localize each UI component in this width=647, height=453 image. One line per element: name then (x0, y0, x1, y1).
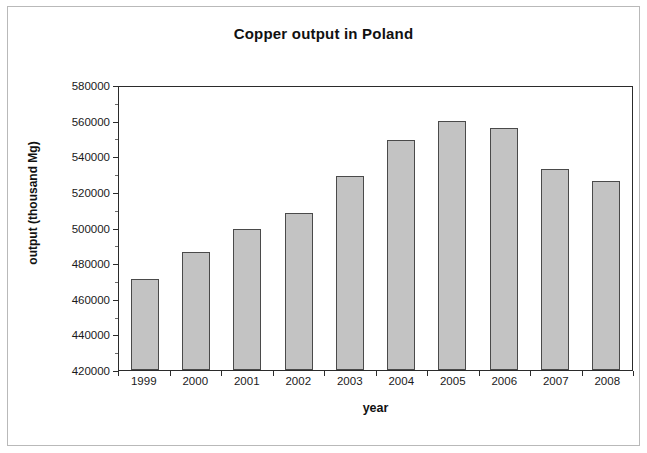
bar-slot (170, 87, 221, 370)
y-tick-label: 580000 (72, 80, 110, 92)
bar-slot (119, 87, 170, 370)
bar-slot (324, 87, 375, 370)
plot-area (118, 86, 633, 371)
x-tick-label-2007: 2007 (530, 375, 582, 387)
bar-slot (478, 87, 529, 370)
x-tick-mark (633, 371, 634, 376)
x-axis-title: year (118, 401, 633, 415)
x-tick-label-2006: 2006 (479, 375, 531, 387)
bar-slot (427, 87, 478, 370)
x-tick-label-2000: 2000 (170, 375, 222, 387)
bar-slot (375, 87, 426, 370)
bar-2002[interactable] (285, 213, 313, 370)
bar-2007[interactable] (541, 169, 569, 370)
y-tick-label: 540000 (72, 151, 110, 163)
y-tick-label: 460000 (72, 294, 110, 306)
y-tick-label: 560000 (72, 116, 110, 128)
y-axis-tick-labels: 5800005600005400005200005000004800004600… (40, 86, 110, 371)
bar-2004[interactable] (387, 140, 415, 370)
x-tick-label-2005: 2005 (427, 375, 479, 387)
bar-2008[interactable] (592, 181, 620, 370)
bar-2001[interactable] (233, 229, 261, 370)
bar-2003[interactable] (336, 176, 364, 370)
chart-figure: Copper output in Poland output (thousand… (0, 0, 647, 453)
y-tick-label: 480000 (72, 258, 110, 270)
x-tick-label-2003: 2003 (324, 375, 376, 387)
y-tick-label: 520000 (72, 187, 110, 199)
x-tick-label-2002: 2002 (273, 375, 325, 387)
y-tick-label: 420000 (72, 365, 110, 377)
bar-slot (222, 87, 273, 370)
bar-2000[interactable] (182, 252, 210, 370)
x-tick-label-2008: 2008 (582, 375, 634, 387)
y-tick-label: 440000 (72, 329, 110, 341)
bar-slot (581, 87, 632, 370)
chart-title: Copper output in Poland (0, 25, 647, 42)
x-tick-label-2004: 2004 (376, 375, 428, 387)
y-tick-label: 500000 (72, 223, 110, 235)
bar-series (119, 87, 632, 370)
y-axis-title: output (thousand Mg) (26, 103, 40, 303)
x-axis-tick-labels: 1999200020012002200320042005200620072008 (118, 375, 633, 387)
bar-slot (273, 87, 324, 370)
bar-slot (529, 87, 580, 370)
bar-2005[interactable] (438, 121, 466, 370)
x-tick-label-2001: 2001 (221, 375, 273, 387)
x-tick-label-1999: 1999 (118, 375, 170, 387)
bar-1999[interactable] (131, 279, 159, 370)
bar-2006[interactable] (490, 128, 518, 370)
